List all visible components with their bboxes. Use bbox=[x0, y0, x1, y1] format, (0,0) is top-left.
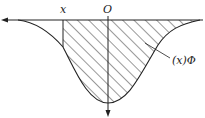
normal-curve-diagram: x O (x)Φ bbox=[0, 0, 205, 118]
curve-label: (x)Φ bbox=[172, 54, 196, 67]
x-axis-arrow-icon bbox=[1, 18, 8, 23]
x-point-label: x bbox=[60, 3, 67, 16]
origin-label: O bbox=[103, 3, 112, 16]
y-axis-arrow-icon bbox=[106, 110, 111, 117]
